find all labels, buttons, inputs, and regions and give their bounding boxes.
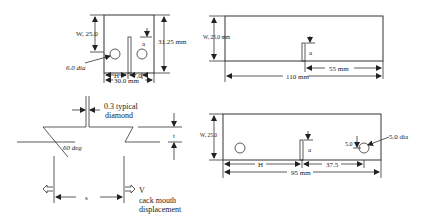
wedge-specimen-figure: W, 25.0 a 5.0 5.0 dia H 37.5 95 mm bbox=[200, 114, 409, 178]
crack-notch bbox=[128, 37, 131, 73]
crack-length-label: a bbox=[142, 40, 146, 48]
pin-hole-left bbox=[110, 49, 120, 59]
crack-length-label: a bbox=[308, 146, 312, 154]
v-label: V bbox=[139, 186, 145, 195]
left-displacement-arrow bbox=[43, 185, 53, 193]
beam-specimen-figure: W, 25.0 mm a 55 mm 110 mm bbox=[203, 16, 383, 82]
tip-label-line2: diamond bbox=[105, 111, 133, 120]
beam-outline bbox=[225, 16, 383, 61]
half-span-label: 55 mm bbox=[329, 65, 349, 73]
width-label: W, 25.0 bbox=[76, 30, 98, 38]
width-label: W, 25.0 bbox=[200, 132, 217, 138]
crack-notch bbox=[300, 140, 303, 160]
pin-hole-right bbox=[137, 49, 147, 59]
width-label: W, 25.0 mm bbox=[203, 34, 231, 40]
notch-detail-figure: 0.3 typical diamond 60 deg t s V cack mo… bbox=[17, 96, 182, 214]
angle-label: 60 deg bbox=[63, 144, 82, 152]
spacing-label: s bbox=[85, 194, 88, 202]
hole-diameter-label: 6.0 dia bbox=[66, 64, 86, 72]
thickness-label: t bbox=[173, 132, 175, 140]
crack-notch bbox=[302, 43, 305, 61]
h-label: H bbox=[258, 161, 263, 169]
overall-width-label: 30.0 mm bbox=[114, 77, 139, 85]
cmod-label-line2: displacement bbox=[139, 205, 182, 214]
length-label: 95 mm bbox=[291, 169, 311, 177]
length-label: 110 mm bbox=[286, 73, 309, 81]
right-displacement-arrow bbox=[125, 185, 135, 193]
cmod-label-line1: cack mouth bbox=[139, 196, 176, 205]
crack-length-label: a bbox=[309, 49, 313, 57]
compact-specimen-figure: W, 25.0 6.0 dia a 31.25 mm H 7.0 30.0 mm bbox=[66, 15, 187, 85]
pin-hole-left bbox=[235, 143, 245, 153]
height-label: 31.25 mm bbox=[158, 38, 187, 46]
pin-span-label: 37.5 bbox=[326, 161, 339, 169]
specimen-outline bbox=[104, 15, 154, 73]
tip-label: 0.3 typical bbox=[104, 102, 139, 111]
hole-diameter-label: 5.0 dia bbox=[389, 133, 409, 141]
hole-offset-label: 5.0 bbox=[345, 141, 353, 147]
